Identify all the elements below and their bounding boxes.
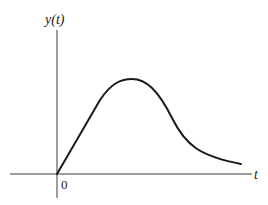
response-diagram: y(t) t 0 <box>0 0 268 205</box>
y-axis-label: y(t) <box>45 13 64 27</box>
x-axis-label: t <box>254 168 258 182</box>
response-curve <box>57 79 241 174</box>
diagram-canvas <box>0 0 268 205</box>
origin-label: 0 <box>61 178 68 191</box>
